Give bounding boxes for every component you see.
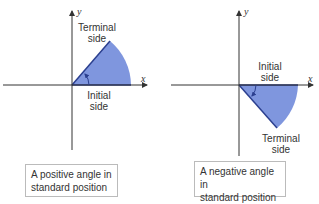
- caption-line: A positive angle in: [31, 168, 112, 181]
- initial-side-label: Initial side: [82, 90, 116, 112]
- positive-angle-caption: A positive angle in standard position: [25, 164, 118, 197]
- label-line: Terminal: [258, 133, 304, 144]
- negative-angle-wedge: [239, 85, 298, 128]
- y-axis-label: y: [77, 6, 81, 17]
- terminal-side-label: Terminal side: [76, 22, 118, 44]
- initial-side-label: Initial side: [253, 61, 287, 83]
- positive-angle-diagram: [3, 11, 147, 150]
- caption-line: standard position: [200, 191, 280, 204]
- y-axis-label: y: [244, 6, 248, 17]
- label-line: side: [253, 72, 287, 83]
- label-line: side: [258, 144, 304, 155]
- caption-line: A negative angle in: [200, 165, 280, 191]
- caption-line: standard position: [31, 181, 112, 194]
- label-line: side: [82, 101, 116, 112]
- x-axis-label: x: [141, 73, 145, 84]
- positive-angle-wedge: [72, 41, 131, 85]
- x-axis-label: x: [308, 73, 312, 84]
- terminal-side-label: Terminal side: [258, 133, 304, 155]
- label-line: Initial: [253, 61, 287, 72]
- label-line: Initial: [82, 90, 116, 101]
- label-line: Terminal: [76, 22, 118, 33]
- negative-angle-caption: A negative angle in standard position: [194, 161, 286, 197]
- label-line: side: [76, 33, 118, 44]
